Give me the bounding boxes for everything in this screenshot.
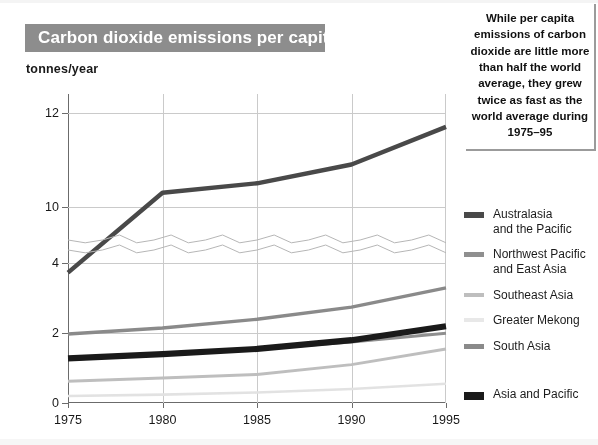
x-axis-tick bbox=[352, 403, 353, 408]
x-axis-tick bbox=[163, 403, 164, 408]
legend-item[interactable]: Australasia and the Pacific bbox=[464, 207, 596, 236]
legend-item[interactable]: Asia and Pacific bbox=[464, 387, 596, 402]
x-axis-tick-label: 1990 bbox=[338, 413, 366, 427]
page-title: Carbon dioxide emissions per capita bbox=[25, 28, 338, 48]
x-axis-tick-label: 1975 bbox=[54, 413, 82, 427]
y-axis-unit-label: tonnes/year bbox=[26, 62, 98, 76]
series-line-greater-mekong bbox=[68, 384, 446, 396]
x-axis-tick bbox=[68, 403, 69, 408]
data-series-layer bbox=[68, 94, 446, 403]
callout-text-box: While per capita emissions of carbon dio… bbox=[466, 4, 596, 151]
y-axis-tick-label: 0 bbox=[52, 396, 59, 410]
x-axis-tick-label: 1995 bbox=[432, 413, 460, 427]
legend-item[interactable]: Greater Mekong bbox=[464, 313, 596, 328]
legend-item-label: Northwest Pacific and East Asia bbox=[493, 247, 586, 276]
x-axis-tick bbox=[446, 403, 447, 408]
chart-title-bar: Carbon dioxide emissions per capita bbox=[25, 24, 325, 52]
x-axis-tick-label: 1985 bbox=[243, 413, 271, 427]
legend-swatch-icon bbox=[464, 212, 484, 218]
y-axis-tick-label: 2 bbox=[52, 326, 59, 340]
x-axis-tick bbox=[257, 403, 258, 408]
page-edge-bottom bbox=[0, 439, 598, 445]
legend-swatch-icon bbox=[464, 318, 484, 322]
page-edge-top bbox=[0, 0, 598, 3]
x-axis-tick-label: 1980 bbox=[149, 413, 177, 427]
legend-swatch-icon bbox=[464, 293, 484, 297]
axis-break-line-upper bbox=[68, 235, 446, 243]
legend-item[interactable]: South Asia bbox=[464, 339, 596, 354]
legend-swatch-icon bbox=[464, 392, 484, 400]
legend-swatch-icon bbox=[464, 252, 484, 257]
chart-legend: Australasia and the PacificNorthwest Pac… bbox=[464, 207, 596, 413]
series-line-south-asia bbox=[68, 288, 446, 334]
legend-item-label: Southeast Asia bbox=[493, 288, 573, 303]
y-axis-tick-label: 12 bbox=[45, 106, 59, 120]
legend-item-label: Asia and Pacific bbox=[493, 387, 578, 402]
y-axis-tick-label: 10 bbox=[45, 200, 59, 214]
legend-item[interactable]: Northwest Pacific and East Asia bbox=[464, 247, 596, 276]
legend-item-label: Greater Mekong bbox=[493, 313, 580, 328]
y-axis-tick-label: 4 bbox=[52, 256, 59, 270]
chart-plot-area: 1210420 19751980198519901995 bbox=[68, 94, 446, 403]
axis-break-line-lower bbox=[68, 245, 446, 253]
legend-item[interactable]: Southeast Asia bbox=[464, 288, 596, 303]
legend-swatch-icon bbox=[464, 344, 484, 349]
legend-item-label: South Asia bbox=[493, 339, 550, 354]
legend-item-label: Australasia and the Pacific bbox=[493, 207, 572, 236]
